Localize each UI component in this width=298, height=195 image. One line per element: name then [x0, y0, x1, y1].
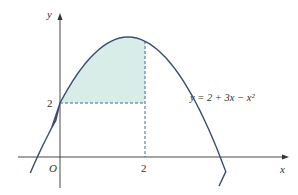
y-tick-label-2: 2: [47, 97, 53, 109]
chart: y x O 2 2 y = 2 + 3x − x²: [0, 0, 298, 195]
x-axis-arrow-icon: [282, 155, 289, 160]
x-axis-label: x: [279, 163, 285, 175]
x-tick-label-2: 2: [141, 162, 147, 174]
origin-label: O: [49, 162, 57, 174]
y-axis-arrow-icon: [58, 13, 63, 20]
y-axis-label: y: [46, 8, 52, 20]
equation-label: y = 2 + 3x − x²: [189, 92, 255, 103]
